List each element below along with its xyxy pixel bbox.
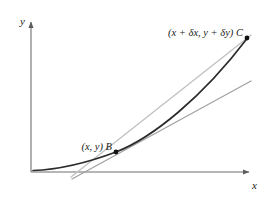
point-c-label: (x + δx, y + δy) C: [168, 27, 244, 39]
y-axis-label: y: [19, 15, 25, 27]
point-b-label: (x, y) B: [81, 141, 112, 153]
point-b-marker: [114, 150, 119, 155]
derivative-diagram: (x, y) B (x + δx, y + δy) C y x: [0, 0, 274, 199]
diagram-canvas: (x, y) B (x + δx, y + δy) C y x: [0, 0, 274, 199]
x-axis-label: x: [251, 179, 257, 191]
point-c-marker: [245, 36, 250, 41]
